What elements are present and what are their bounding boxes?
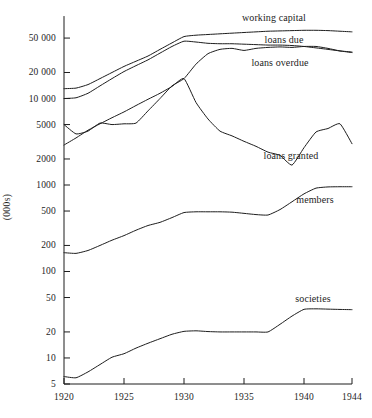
series-label-working-capital: working capital bbox=[242, 12, 306, 23]
series-line bbox=[64, 309, 352, 378]
y-axis-tick-label: 50 bbox=[0, 293, 56, 303]
x-axis-tick-label: 1944 bbox=[342, 392, 362, 402]
series-line bbox=[64, 46, 352, 134]
series-line bbox=[64, 30, 352, 88]
series-label-loans-overdue: loans overdue bbox=[251, 57, 308, 68]
y-axis-tick-label: 20 bbox=[0, 327, 56, 337]
series-label-loans-due: loans due bbox=[265, 34, 304, 45]
x-axis-tick-label: 1935 bbox=[234, 392, 254, 402]
y-axis-tick-label: 5 bbox=[0, 379, 56, 389]
y-axis-title: (000s) bbox=[2, 194, 12, 221]
series-label-members: members bbox=[296, 194, 333, 205]
x-axis-tick-label: 1940 bbox=[294, 392, 314, 402]
y-axis-tick-label: 50 000 bbox=[0, 33, 56, 43]
y-axis-tick-label: 1000 bbox=[0, 180, 56, 190]
series-line bbox=[64, 41, 352, 98]
x-axis-tick-label: 1930 bbox=[174, 392, 194, 402]
y-axis-tick-label: 10 000 bbox=[0, 94, 56, 104]
y-axis-tick-label: 200 bbox=[0, 240, 56, 250]
series-label-societies: societies bbox=[295, 293, 330, 304]
series-label-loans-granted: loans granted bbox=[264, 150, 319, 161]
y-axis-tick-label: 20 000 bbox=[0, 67, 56, 77]
y-axis-tick-label: 100 bbox=[0, 266, 56, 276]
y-axis-tick-label: 5000 bbox=[0, 120, 56, 130]
y-axis-tick-label: 10 bbox=[0, 353, 56, 363]
chart-figure: 50 00020 00010 0005000200010005002001005… bbox=[0, 0, 372, 418]
x-axis-tick-label: 1925 bbox=[114, 392, 134, 402]
x-axis-tick-label: 1920 bbox=[54, 392, 74, 402]
y-axis-tick-label: 2000 bbox=[0, 154, 56, 164]
